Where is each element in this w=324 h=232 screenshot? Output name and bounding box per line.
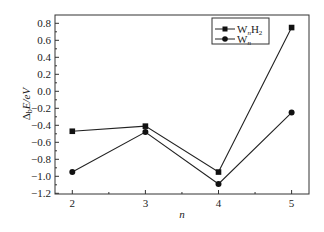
square-marker-icon	[70, 128, 76, 134]
circle-marker-icon	[216, 181, 222, 187]
x-tick-label: 4	[216, 197, 222, 209]
y-tick-label: −0.6	[31, 136, 51, 148]
square-marker-icon	[143, 123, 149, 129]
y-tick-label: 0.6	[37, 34, 51, 46]
line-chart: 0.80.60.40.20.0−0.2−0.4−0.6−0.8−1.0−1.2 …	[0, 0, 324, 232]
circle-marker-icon	[289, 110, 295, 116]
x-axis-ticks: 2345	[70, 190, 295, 209]
square-marker-icon	[223, 27, 228, 32]
square-marker-icon	[216, 169, 222, 175]
square-marker-icon	[289, 25, 295, 31]
legend: WnH2 Wn	[212, 18, 269, 47]
y-tick-label: 0.2	[37, 68, 51, 80]
circle-marker-icon	[222, 36, 228, 42]
circle-marker-icon	[142, 129, 148, 135]
x-tick-label: 5	[289, 197, 295, 209]
x-tick-label: 3	[143, 197, 149, 209]
y-tick-label: 0.0	[37, 85, 51, 97]
x-tick-label: 2	[70, 197, 76, 209]
y-tick-label: −0.2	[31, 102, 51, 114]
plot-frame	[55, 15, 309, 194]
y-axis-label: ΔbE/eV	[20, 86, 34, 120]
x-axis-label: n	[179, 208, 185, 220]
y-tick-label: −0.4	[31, 119, 51, 131]
y-tick-label: 0.8	[37, 17, 51, 29]
series-line-wn	[72, 113, 291, 184]
y-tick-label: 0.4	[37, 51, 51, 63]
series-group	[69, 25, 294, 187]
y-tick-label: −0.8	[31, 153, 51, 165]
series-line-wnh2	[72, 28, 291, 173]
circle-marker-icon	[69, 169, 75, 175]
y-tick-label: −1.2	[31, 187, 51, 199]
y-tick-label: −1.0	[31, 170, 51, 182]
